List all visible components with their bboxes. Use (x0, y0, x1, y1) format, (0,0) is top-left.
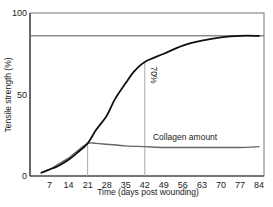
collagen-amount-line (41, 143, 259, 173)
x-axis-label: Time (days post wounding) (97, 187, 199, 197)
annotation-70-percent: 70% (149, 66, 159, 83)
y-tick-label: 50 (17, 90, 27, 100)
y-tick-label: 100 (12, 8, 27, 18)
reference-lines (30, 36, 264, 176)
x-tick-label: 7 (47, 180, 52, 190)
y-tick-label: 0 (22, 171, 27, 181)
x-tick-label: 70 (216, 180, 226, 190)
x-tick-label: 84 (254, 180, 264, 190)
x-tick-label: 77 (235, 180, 245, 190)
chart: 050100 71421283542495663707784 Time (day… (0, 0, 273, 207)
x-tick-label: 21 (83, 180, 93, 190)
tensile-strength-line (41, 36, 259, 173)
y-axis-label: Tensile strength (%) (3, 57, 13, 132)
series-lines (41, 36, 259, 173)
x-tick-label: 14 (64, 180, 74, 190)
annotation-collagen-amount: Collagen amount (153, 132, 218, 142)
y-axis-ticks: 050100 (12, 8, 27, 181)
